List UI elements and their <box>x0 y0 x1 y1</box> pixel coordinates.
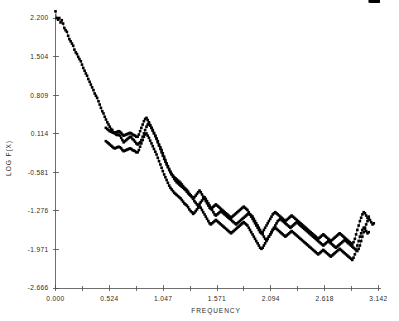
data-point-marker <box>372 222 375 225</box>
data-point-marker <box>365 223 368 226</box>
data-point-marker <box>148 137 151 140</box>
data-point-marker <box>364 228 367 231</box>
data-point-marker <box>359 244 362 247</box>
data-point-marker <box>162 154 165 157</box>
data-point-marker <box>155 138 158 141</box>
data-point-marker <box>362 231 365 234</box>
data-series <box>105 0 380 246</box>
data-point-marker <box>159 148 162 151</box>
data-point-marker <box>357 240 360 243</box>
data-point-marker <box>139 130 142 133</box>
data-point-marker <box>359 235 362 238</box>
x-tick-label: 1.571 <box>208 295 226 302</box>
data-point-marker <box>156 141 159 144</box>
data-point-marker <box>58 17 61 20</box>
data-point-marker <box>258 229 261 232</box>
data-point-marker <box>88 81 91 84</box>
data-point-marker <box>366 220 369 223</box>
data-point-marker <box>120 137 123 140</box>
data-point-marker <box>361 229 364 232</box>
data-point-marker <box>261 246 264 249</box>
data-point-marker <box>246 224 249 227</box>
data-point-marker <box>158 144 161 147</box>
data-point-marker <box>256 226 259 229</box>
data-point-marker <box>352 241 355 244</box>
data-point-marker <box>250 215 253 218</box>
data-point-marker <box>187 206 190 209</box>
data-point-marker <box>377 0 380 3</box>
data-point-marker <box>354 238 357 241</box>
data-point-marker <box>144 129 147 132</box>
data-point-marker <box>359 220 362 223</box>
data-point-marker <box>67 34 70 37</box>
data-point-marker <box>151 129 154 132</box>
data-point-marker <box>121 139 124 142</box>
y-tick-label: 1.504 <box>30 53 48 60</box>
data-point-marker <box>247 226 250 229</box>
data-point-marker <box>167 182 170 185</box>
data-point-marker <box>141 123 144 126</box>
data-point-marker <box>355 249 358 252</box>
data-point-marker <box>199 206 202 209</box>
data-point-marker <box>265 224 268 227</box>
data-point-marker <box>270 215 273 218</box>
x-axis-tick-labels: 0.0000.5241.0471.5712.0942.6183.142 <box>46 295 387 302</box>
x-tick-label: 0.524 <box>100 295 118 302</box>
data-point-marker <box>83 69 86 72</box>
data-point-marker <box>268 220 271 223</box>
data-point-marker <box>207 220 210 223</box>
data-point-marker <box>98 103 101 106</box>
data-point-marker <box>167 166 170 169</box>
y-tick-label: 0.809 <box>30 92 48 99</box>
data-point-marker <box>253 235 256 238</box>
spectral-density-chart: 2.2001.5040.8090.114-0.581-1.276-1.971-2… <box>0 0 399 321</box>
data-point-marker <box>146 134 149 137</box>
data-point-marker <box>354 253 357 256</box>
data-point-marker <box>66 31 69 34</box>
data-point-marker <box>101 110 104 113</box>
data-point-marker <box>160 167 163 170</box>
data-point-marker <box>145 117 148 120</box>
data-point-marker <box>60 19 63 22</box>
data-point-marker <box>136 135 139 138</box>
data-point-marker <box>71 42 74 45</box>
data-point-marker <box>138 149 141 152</box>
data-point-marker <box>254 238 257 241</box>
y-axis-tick-labels: 2.2001.5040.8090.114-0.581-1.276-1.971-2… <box>28 14 49 291</box>
data-point-marker <box>187 190 190 193</box>
data-point-marker <box>162 170 165 173</box>
x-axis-group: 0.0000.5241.0471.5712.0942.6183.142 <box>46 285 387 302</box>
data-point-marker <box>207 204 210 207</box>
data-series <box>54 0 380 252</box>
data-point-marker <box>367 215 370 218</box>
data-point-marker <box>69 40 72 43</box>
y-tick-label: -2.666 <box>28 284 49 291</box>
data-point-marker <box>264 242 267 245</box>
x-axis-title: FREQUENCY <box>191 307 241 315</box>
data-point-marker <box>153 132 156 135</box>
data-series-layer <box>54 0 380 261</box>
y-axis-title: LOG F(X) <box>5 140 13 176</box>
data-point-marker <box>361 235 364 238</box>
data-point-marker <box>160 151 163 154</box>
data-point-marker <box>361 213 364 216</box>
data-point-marker <box>136 151 139 154</box>
data-point-marker <box>150 127 153 130</box>
data-point-marker <box>206 202 209 205</box>
data-point-marker <box>92 89 95 92</box>
data-point-marker <box>270 231 273 234</box>
data-point-marker <box>266 238 269 241</box>
data-point-marker <box>97 100 100 103</box>
data-point-marker <box>79 60 82 63</box>
data-point-marker <box>365 230 368 233</box>
data-point-marker <box>356 229 359 232</box>
data-point-marker <box>256 242 259 245</box>
data-point-marker <box>274 224 277 227</box>
data-point-marker <box>247 211 250 214</box>
data-point-marker <box>206 218 209 221</box>
x-tick-label: 3.142 <box>369 295 387 302</box>
data-point-marker <box>364 212 367 215</box>
y-tick-label: -1.971 <box>28 246 49 253</box>
data-point-marker <box>249 213 252 216</box>
data-point-marker <box>151 145 154 148</box>
